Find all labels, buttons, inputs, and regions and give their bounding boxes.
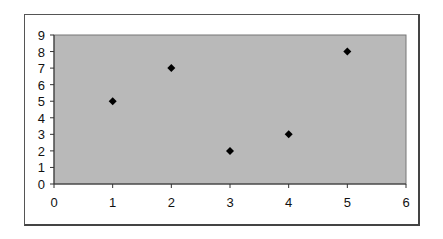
- x-tick-label: 6: [402, 195, 409, 210]
- x-tick-label: 3: [226, 195, 233, 210]
- x-tick-label: 2: [168, 195, 175, 210]
- scatter-chart: 01234567890123456: [0, 0, 443, 239]
- y-tick-label: 1: [38, 160, 45, 175]
- x-tick-label: 1: [109, 195, 116, 210]
- x-tick-label: 0: [50, 195, 57, 210]
- y-tick-label: 5: [38, 94, 45, 109]
- y-tick-label: 3: [38, 127, 45, 142]
- y-tick-label: 8: [38, 45, 45, 60]
- y-tick-label: 2: [38, 144, 45, 159]
- y-tick-label: 6: [38, 78, 45, 93]
- y-tick-label: 7: [38, 61, 45, 76]
- y-tick-label: 0: [38, 177, 45, 192]
- y-tick-label: 9: [38, 28, 45, 43]
- plot-area: [54, 35, 406, 184]
- x-tick-label: 5: [344, 195, 351, 210]
- y-tick-label: 4: [38, 111, 45, 126]
- x-tick-label: 4: [285, 195, 292, 210]
